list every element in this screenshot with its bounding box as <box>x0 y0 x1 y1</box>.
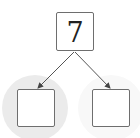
number-bond-diagram: 7 <box>0 0 140 138</box>
arrow-to-left <box>38 52 74 88</box>
left-part-box[interactable] <box>17 89 55 127</box>
right-part-box[interactable] <box>92 89 130 127</box>
whole-number-value: 7 <box>66 17 83 46</box>
arrow-to-right <box>75 52 110 88</box>
whole-number-box: 7 <box>56 12 94 51</box>
